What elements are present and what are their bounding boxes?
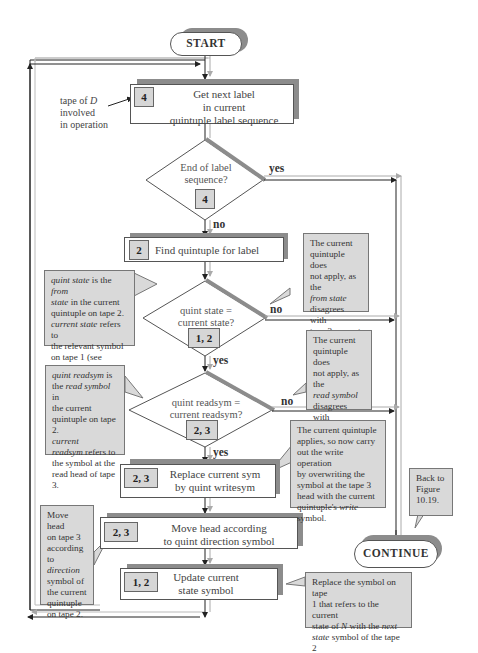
- replace-sym-box: 2, 3 Replace current symby quint writesy…: [120, 464, 276, 498]
- callout-quint-state: quint state is the fromstate in the curr…: [44, 270, 135, 346]
- quint-state-text: quint state =current state?: [170, 305, 242, 329]
- update-state-box: 1, 2 Update currentstate symbol: [120, 568, 278, 600]
- callout-back-to-figure: Back toFigure10.19.: [409, 468, 453, 516]
- find-quintuple-text: Find quintuple for label: [155, 244, 275, 257]
- callout-write: The current quintupleapplies, so now car…: [290, 420, 386, 508]
- end-of-sequence-text: End of labelsequence?: [170, 162, 242, 186]
- find-quintuple-tag: 2: [129, 240, 149, 260]
- replace-sym-text: Replace current symby quint writesym: [159, 468, 271, 494]
- get-next-label-text: Get next labelin currentquintuple label …: [157, 88, 291, 127]
- continue-label: CONTINUE: [363, 547, 429, 559]
- callout-move-head: Move headon tape 3accordingtodirectionsy…: [40, 505, 94, 605]
- callout-quint-readsym: quint readsym isthe read symbol inthe cu…: [45, 365, 125, 455]
- end-of-sequence-no: no: [213, 218, 225, 230]
- start-label: START: [186, 37, 226, 49]
- callout-readsym-mismatch: The currentquintuple doesnot apply, as t…: [306, 330, 372, 410]
- quint-readsym-yes: yes: [213, 446, 228, 458]
- move-head-text: Move head accordingto quint direction sy…: [141, 522, 297, 548]
- update-state-text: Update currentstate symbol: [161, 571, 251, 597]
- end-of-sequence-yes: yes: [269, 162, 284, 174]
- tape-annotation: tape of D involved in operation: [60, 95, 120, 131]
- get-next-label-box: 4 Get next labelin currentquintuple labe…: [130, 84, 294, 124]
- tape-tag: 4: [134, 87, 154, 107]
- quint-state-no: no: [270, 303, 282, 315]
- find-quintuple-box: 2 Find quintuple for label: [124, 237, 284, 262]
- quint-readsym-tag: 2, 3: [186, 420, 218, 440]
- move-head-tag: 2, 3: [104, 522, 138, 542]
- quint-state-tag: 1, 2: [188, 328, 220, 348]
- replace-sym-tag: 2, 3: [124, 468, 158, 488]
- callout-update-state: Replace the symbol on tape1 that refers …: [305, 572, 412, 628]
- quint-readsym-no: no: [281, 395, 293, 407]
- callout-state-mismatch: The currentquintuple doesnot apply, as t…: [303, 233, 369, 312]
- quint-readsym-text: quint readsym =current readsym?: [160, 397, 252, 421]
- move-head-box: 2, 3 Move head accordingto quint directi…: [100, 517, 298, 549]
- start-terminator: START: [170, 32, 242, 56]
- quint-state-yes: yes: [213, 354, 228, 366]
- update-state-tag: 1, 2: [124, 572, 158, 592]
- tape-variable: D: [90, 95, 97, 106]
- end-of-sequence-tag: 4: [195, 189, 215, 209]
- continue-terminator: CONTINUE: [354, 540, 438, 568]
